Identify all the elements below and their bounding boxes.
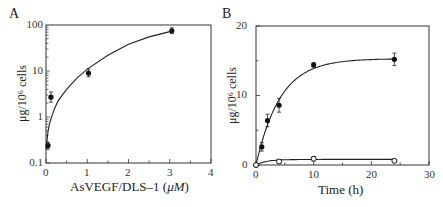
panel-a-label: A (9, 6, 19, 22)
panel-a-xtick-1: 1 (84, 166, 90, 178)
panel-a-fit-curve (46, 32, 170, 150)
panel-a-xtick-2: 2 (125, 166, 131, 178)
panel-a-ytick-100: 100 (27, 18, 44, 30)
panel-b-ytick-0: 0 (242, 158, 248, 170)
panel-a-xlabel-close: ) (185, 179, 189, 194)
panel-a-data-point (48, 95, 53, 100)
panel-a-xtick-0: 0 (43, 166, 49, 178)
panel-b-open-point (392, 158, 397, 163)
panel-b-label: B (222, 6, 231, 22)
panel-b-plot (253, 26, 429, 168)
panel-b-filled-point (276, 103, 281, 108)
panel-b-ylabel: μg/10⁶ cells (225, 56, 240, 136)
panel-a-ytick-10: 10 (32, 64, 43, 76)
panel-b-xtick-10: 10 (308, 168, 319, 180)
panel-b-filled-point (392, 57, 397, 62)
panel-b-open-point (311, 156, 316, 161)
panel-b-filled-point (265, 118, 270, 123)
panel-a-xlabel: AsVEGF/DLS–1 (μM) (70, 179, 189, 195)
panel-a-frame (46, 25, 211, 163)
panel-b-filled-point (311, 62, 316, 67)
panel-a-data-point (169, 28, 174, 33)
panel-b-fit-filled (256, 59, 394, 165)
panel-a-data-point (45, 143, 50, 148)
panel-a-ytick-1: 1 (38, 110, 44, 122)
panel-b-xtick-20: 20 (366, 168, 377, 180)
panel-b-open-point (277, 159, 282, 164)
panel-a-xtick-4: 4 (208, 166, 214, 178)
panel-a-xlabel-unit: μM (167, 179, 184, 194)
panel-a-xtick-3: 3 (167, 166, 173, 178)
panel-b-open-point (254, 163, 259, 168)
panel-b-ytick-20: 20 (236, 19, 247, 31)
panel-a-plot (45, 25, 211, 163)
panel-a-data-point (86, 71, 91, 76)
panel-b-filled-point (259, 144, 264, 149)
panel-a-xlabel-text: AsVEGF/DLS–1 ( (70, 179, 167, 194)
panel-a-ylabel: μg/10⁶ cells (15, 54, 30, 134)
panel-b-xtick-30: 30 (424, 168, 435, 180)
panel-b-xlabel: Time (h) (318, 182, 363, 198)
panel-a-ytick-0.1: 0.1 (29, 156, 43, 168)
panel-b-xtick-0: 0 (253, 168, 259, 180)
